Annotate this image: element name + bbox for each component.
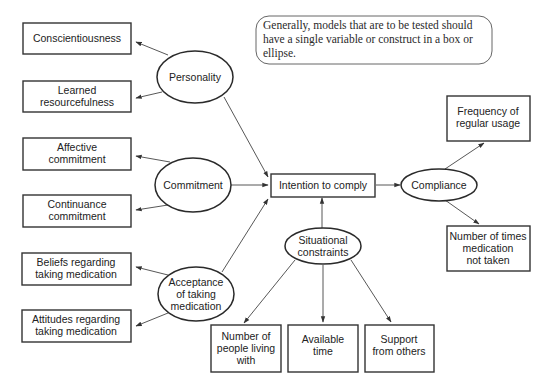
node-label: commitment — [48, 153, 105, 165]
node-label: Number of — [221, 330, 270, 342]
node-continuance-commitment: Continuance commitment — [23, 195, 131, 227]
node-label: time — [313, 345, 333, 357]
edge-personality-intention — [224, 97, 268, 177]
edge-situational-people — [244, 260, 295, 323]
node-label: Acceptance — [169, 276, 224, 288]
note-line-3: ellipse. — [263, 47, 296, 60]
edge-commitment-affective — [136, 156, 170, 162]
node-situational: Situational constraints — [285, 228, 361, 264]
node-affective-commitment: Affective commitment — [23, 138, 131, 170]
node-available-time: Available time — [288, 325, 358, 372]
node-label: Number of times — [449, 230, 526, 242]
node-conscientiousness: Conscientiousness — [23, 23, 131, 54]
node-label: medication — [463, 242, 514, 254]
note-callout: Generally, models that are to be tested … — [256, 16, 492, 64]
node-beliefs: Beliefs regarding taking medication — [22, 253, 131, 285]
node-label: of taking — [176, 288, 216, 300]
node-label: Personality — [169, 71, 222, 83]
node-personality: Personality — [157, 51, 233, 103]
node-label: Affective — [57, 141, 97, 153]
node-label: with — [236, 354, 256, 366]
edge-personality-learned — [136, 92, 162, 98]
node-label: Compliance — [411, 179, 467, 191]
node-label: Attitudes regarding — [32, 313, 120, 325]
edge-compliance-times — [445, 200, 479, 224]
node-compliance: Compliance — [401, 169, 477, 201]
node-label: from others — [372, 345, 425, 357]
node-attitudes: Attitudes regarding taking medication — [22, 310, 131, 342]
node-acceptance: Acceptance of taking medication — [158, 267, 234, 321]
node-label: Continuance — [48, 198, 107, 210]
node-times-not-taken: Number of times medication not taken — [447, 226, 530, 271]
edge-personality-conscientiousness — [136, 42, 168, 55]
node-label: commitment — [48, 210, 105, 222]
node-frequency: Frequency of regular usage — [447, 96, 530, 141]
node-label: medication — [171, 300, 222, 312]
node-label: Situational — [298, 234, 347, 246]
node-label: resourcefulness — [40, 96, 114, 108]
node-learned-resourcefulness: Learned resourcefulness — [23, 81, 131, 112]
edge-acceptance-intention — [222, 199, 268, 272]
node-label: taking medication — [35, 325, 117, 337]
edge-situational-support — [351, 260, 391, 322]
node-support: Support from others — [365, 325, 434, 372]
note-line-2: have a single variable or construct in a… — [263, 33, 473, 46]
node-label: Conscientiousness — [33, 32, 121, 44]
node-label: taking medication — [35, 268, 117, 280]
edge-commitment-continuance — [136, 205, 168, 210]
node-intention: Intention to comply — [271, 174, 375, 197]
node-label: people living — [217, 342, 276, 354]
node-label: Beliefs regarding — [37, 256, 116, 268]
note-line-1: Generally, models that are to be tested … — [263, 19, 473, 32]
node-label: Learned — [58, 84, 97, 96]
edge-acceptance-attitudes — [136, 313, 168, 326]
node-label: regular usage — [456, 117, 520, 129]
node-label: Intention to comply — [279, 179, 368, 191]
node-label: Frequency of — [457, 105, 518, 117]
node-label: Support — [381, 333, 418, 345]
node-label: Commitment — [163, 179, 223, 191]
edge-compliance-frequency — [445, 143, 484, 169]
node-label: not taken — [466, 254, 509, 266]
diagram-canvas: Generally, models that are to be tested … — [0, 0, 552, 392]
node-label: constraints — [298, 246, 349, 258]
node-commitment: Commitment — [155, 158, 231, 212]
edge-acceptance-beliefs — [136, 267, 168, 275]
node-label: Available — [302, 333, 345, 345]
node-people-living-with: Number of people living with — [211, 325, 281, 372]
